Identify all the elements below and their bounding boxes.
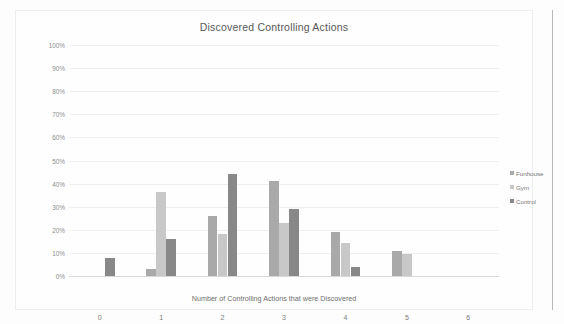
y-axis-tick-label: 90%: [21, 65, 65, 72]
bar-funhouse-4: [331, 232, 341, 276]
legend-item-control[interactable]: Control: [510, 194, 564, 208]
gridline: [69, 91, 499, 92]
bar-gym-3: [279, 223, 289, 276]
y-axis-tick-label: 10%: [21, 249, 65, 256]
chart-legend: FunhouseGymControl: [510, 166, 564, 208]
legend-swatch-icon: [510, 171, 514, 175]
bar-gym-4: [341, 243, 351, 276]
gridline: [69, 68, 499, 69]
gridline: [69, 114, 499, 115]
x-axis-tick-label: 0: [80, 314, 120, 321]
y-axis-tick-label: 80%: [21, 88, 65, 95]
gridline: [69, 45, 499, 46]
x-axis-tick-label: 3: [264, 314, 304, 321]
gridline: [69, 161, 499, 162]
legend-swatch-icon: [510, 185, 514, 189]
gridline: [69, 276, 499, 277]
y-axis-tick-label: 60%: [21, 134, 65, 141]
x-axis-tick-label: 1: [141, 314, 181, 321]
bar-funhouse-5: [392, 251, 402, 276]
y-axis-tick-label: 30%: [21, 203, 65, 210]
legend-label: Funhouse: [516, 170, 544, 177]
bar-control-0: [105, 258, 115, 276]
y-axis-tick-label: 70%: [21, 111, 65, 118]
chart-container: Discovered Controlling Actions Percentag…: [15, 10, 533, 310]
y-axis-tick-label: 0%: [21, 273, 65, 280]
legend-item-gym[interactable]: Gym: [510, 180, 564, 194]
bar-control-1: [166, 239, 176, 276]
gridline: [69, 137, 499, 138]
x-axis-title: Number of Controlling Actions that were …: [16, 294, 532, 303]
gridline: [69, 184, 499, 185]
bar-funhouse-2: [208, 216, 218, 276]
page-gutter-rule: [552, 10, 553, 310]
x-axis-tick-label: 5: [387, 314, 427, 321]
bar-gym-5: [402, 254, 412, 276]
bar-gym-1: [156, 192, 166, 276]
x-axis-tick-label: 2: [203, 314, 243, 321]
legend-label: Gym: [516, 184, 529, 191]
x-axis-tick-label: 6: [448, 314, 488, 321]
document-page: Discovered Controlling Actions Percentag…: [0, 0, 564, 324]
bar-gym-2: [218, 234, 228, 276]
chart-title: Discovered Controlling Actions: [16, 21, 532, 33]
plot-area: 0%10%20%30%40%50%60%70%80%90%100% 012345…: [69, 45, 499, 276]
legend-label: Control: [516, 198, 536, 205]
bar-control-4: [351, 267, 361, 276]
bar-funhouse-1: [146, 269, 156, 276]
y-axis-tick-label: 100%: [21, 42, 65, 49]
bar-funhouse-3: [269, 181, 279, 276]
y-axis-tick-label: 20%: [21, 226, 65, 233]
bar-control-3: [289, 209, 299, 276]
x-axis-tick-label: 4: [325, 314, 365, 321]
y-axis-tick-label: 50%: [21, 157, 65, 164]
legend-swatch-icon: [510, 199, 514, 203]
gridline: [69, 207, 499, 208]
bar-control-2: [228, 174, 238, 276]
legend-item-funhouse[interactable]: Funhouse: [510, 166, 564, 180]
y-axis-tick-label: 40%: [21, 180, 65, 187]
